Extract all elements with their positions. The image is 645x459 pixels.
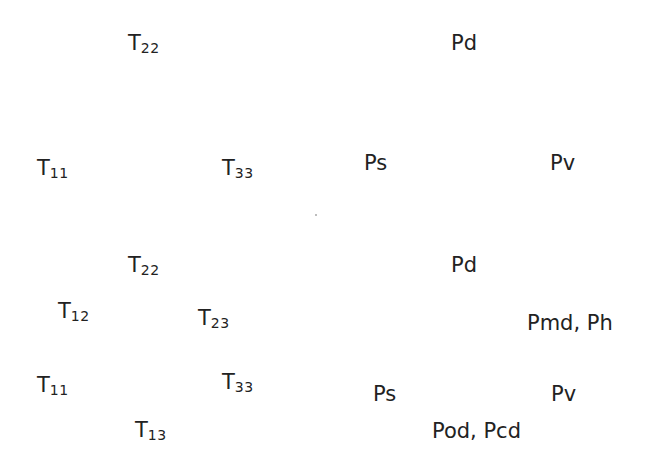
label-top: T22 <box>128 33 160 55</box>
label-left: Ps <box>364 153 387 174</box>
label-top-right: Pmd, Ph <box>527 313 613 334</box>
label-right: Pv <box>551 384 576 405</box>
label-left: T11 <box>37 158 69 180</box>
label-top-left: T12 <box>58 301 90 323</box>
label-top: T22 <box>128 255 160 277</box>
label-left: Ps <box>373 384 396 405</box>
label-bottom: Pod, Pcd <box>432 421 521 442</box>
label-bottom: T13 <box>135 420 167 442</box>
label-top-right: T23 <box>198 308 230 330</box>
label-right: T33 <box>222 372 254 394</box>
label-top: Pd <box>451 33 477 54</box>
label-top: Pd <box>451 255 477 276</box>
label-right: Pv <box>550 153 575 174</box>
label-right: T33 <box>222 158 254 180</box>
scan-artifact <box>315 214 317 216</box>
label-left: T11 <box>37 375 69 397</box>
